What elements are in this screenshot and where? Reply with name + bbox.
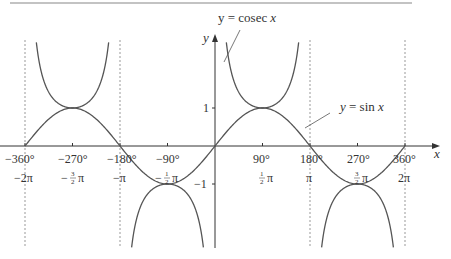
x-rad-2pi: 2π [398,171,410,185]
sin-label: yy = sin = sin x [338,99,384,114]
x-rad-neg3halfpi: − 3 2 π [61,170,84,186]
svg-text:π: π [362,171,368,185]
x-tick-neg270: −270° [58,152,88,166]
x-rad-negpi: −π [113,171,126,185]
sin-leader-line [305,113,330,128]
x-tick-180: 180° [300,152,323,166]
y-axis-label: y [201,30,209,45]
cosec-branch [36,42,108,108]
svg-text:2: 2 [71,178,75,186]
svg-text:2: 2 [355,178,359,186]
y-axis-arrow-icon [212,34,218,42]
x-axis-label: x [433,146,440,161]
cosec-branch [132,184,204,247]
svg-text:−: − [155,171,162,185]
svg-text:π: π [267,171,273,185]
cosec-branch [322,184,394,247]
y-tick-neg1: −1 [194,177,207,191]
x-tick-90: 90° [253,152,270,166]
svg-text:3: 3 [71,170,75,178]
y-tick-1: 1 [203,101,209,115]
svg-text:2: 2 [260,178,264,186]
svg-text:3: 3 [355,170,359,178]
x-rad-pi: π [306,171,312,185]
svg-text:π: π [78,171,84,185]
svg-text:1: 1 [260,170,264,178]
x-tick-360: 360° [393,152,416,166]
x-rad-3halfpi: 3 2 π [354,170,368,186]
x-tick-neg90: −90° [156,152,180,166]
cosec-branch [226,42,298,108]
x-tick-270: 270° [347,152,370,166]
svg-text:1: 1 [165,170,169,178]
x-tick-neg180: −180° [107,152,137,166]
svg-text:2: 2 [165,178,169,186]
svg-text:π: π [172,171,178,185]
chart-canvas: y = cosecx yy = sin = sin x x y 1 −1 −36… [0,0,451,259]
svg-text:−: − [61,171,68,185]
x-tick-neg360: −360° [5,152,35,166]
x-rad-neghalfpi: − 1 2 π [155,170,178,186]
x-rad-halfpi: 1 2 π [259,170,273,186]
x-rad-neg2pi: −2π [14,171,33,185]
cosec-label: y = cosecx [218,10,276,25]
